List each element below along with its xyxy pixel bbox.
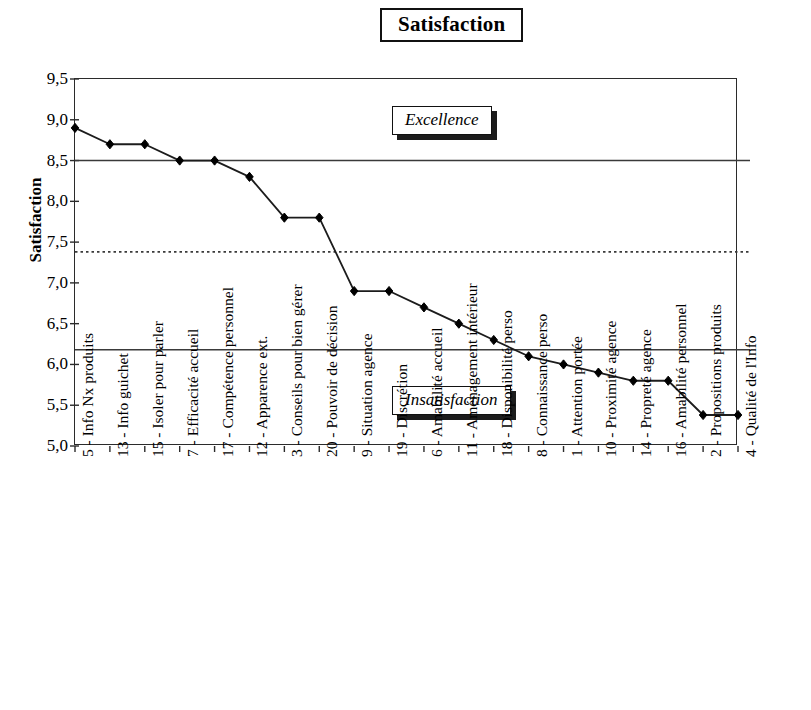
x-tick-label: 18 - Disponibilité perso bbox=[499, 310, 515, 457]
x-tick-label: 5 - Info Nx produits bbox=[80, 333, 96, 457]
x-tick-label: 19 - Discrétion bbox=[394, 364, 410, 457]
x-tick-label: 20 - Pouvoir de décision bbox=[324, 305, 340, 457]
x-tick-label: 14 - Propreté agence bbox=[638, 329, 654, 457]
x-tick-label: 4 - Qualité de l'Info bbox=[743, 335, 759, 457]
x-tick-label: 15 - Isoler pour parler bbox=[150, 321, 166, 457]
x-axis-tick-labels: 5 - Info Nx produits13 - Info guichet15 … bbox=[0, 0, 811, 710]
satisfaction-chart: Satisfaction Satisfaction 9,59,08,58,07,… bbox=[0, 0, 811, 710]
x-tick-label: 13 - Info guichet bbox=[115, 353, 131, 457]
x-tick-label: 7 - Efficacité accueil bbox=[185, 329, 201, 457]
x-tick-label: 12 - Apparence ext. bbox=[254, 336, 270, 457]
x-tick-label: 17 - Compétence personnel bbox=[220, 287, 236, 457]
x-tick-label: 2 - Propositions produits bbox=[708, 304, 724, 457]
x-tick-label: 10 - Proximité agence bbox=[603, 321, 619, 457]
x-tick-label: 11 - Aménagement intérieur bbox=[464, 283, 480, 457]
x-tick-label: 6 - Amabilité accueil bbox=[429, 327, 445, 457]
x-tick-label: 8 - Connaissance perso bbox=[534, 314, 550, 457]
x-tick-label: 9 - Situation agence bbox=[359, 333, 375, 457]
x-tick-label: 3 - Conseils pour bien gérer bbox=[289, 284, 305, 457]
x-tick-label: 16 - Amabilité personnel bbox=[673, 303, 689, 457]
x-tick-label: 1 - Attention portée bbox=[569, 336, 585, 457]
